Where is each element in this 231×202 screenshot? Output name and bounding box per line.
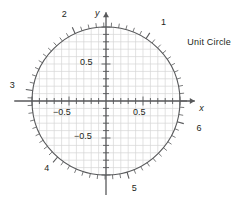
y-axis-label: y (95, 8, 100, 18)
radian-marker-label: 6 (197, 123, 202, 133)
x-tick-label: −0.5 (53, 107, 71, 117)
x-axis-label: x (199, 103, 204, 113)
unit-circle-plot (0, 0, 231, 202)
x-axis-arrow (190, 98, 195, 104)
figure-caption: Unit Circle (187, 37, 231, 47)
radian-marker-label: 4 (44, 163, 49, 173)
y-axis-arrow (103, 12, 109, 17)
y-tick-label: −0.5 (74, 131, 92, 141)
radian-marker-label: 3 (10, 80, 15, 90)
radian-marker-label: 1 (161, 17, 166, 27)
radian-marker-label: 5 (132, 183, 137, 193)
y-tick-label: 0.5 (80, 57, 93, 67)
radian-marker-label: 2 (62, 9, 67, 19)
unit-circle-figure: Unit Circle x y −0.50.50.5−0.5 123456 (0, 0, 231, 202)
x-tick-label: 0.5 (133, 107, 146, 117)
